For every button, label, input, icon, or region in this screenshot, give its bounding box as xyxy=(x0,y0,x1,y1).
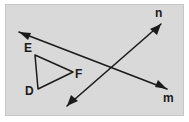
triangle-DEF xyxy=(35,55,73,89)
line-n-arrowhead-lower-left xyxy=(67,95,78,106)
vertex-label-E: E xyxy=(24,42,32,54)
line-n-arrowhead-upper-right xyxy=(150,24,161,35)
vertex-label-D: D xyxy=(25,85,34,97)
line-m-arrowhead-lower-right xyxy=(155,80,167,89)
vertex-label-F: F xyxy=(75,68,82,80)
line-m-arrowhead-upper-left xyxy=(19,32,31,40)
line-label-n: n xyxy=(155,7,162,19)
diagram-canvas: E D F n m xyxy=(0,0,189,122)
line-m-segment xyxy=(19,32,167,89)
line-n-segment xyxy=(67,24,161,106)
line-n xyxy=(67,24,161,106)
line-label-m: m xyxy=(163,92,174,104)
line-m xyxy=(19,32,167,89)
